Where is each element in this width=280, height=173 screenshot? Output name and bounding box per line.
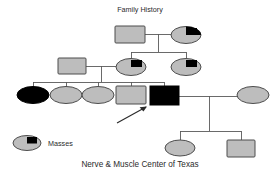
masses-marker-I-2 bbox=[186, 28, 197, 35]
person-III-3-female-unaffected[interactable] bbox=[82, 87, 114, 104]
person-I-1-male-unaffected[interactable] bbox=[115, 26, 145, 43]
legend-label-masses: Masses bbox=[48, 139, 73, 148]
person-III-6-female-unaffected[interactable] bbox=[237, 87, 269, 104]
person-III-2-female-unaffected[interactable] bbox=[50, 87, 82, 104]
masses-marker-II-2 bbox=[131, 60, 142, 67]
person-III-5-male-proband-affected[interactable] bbox=[150, 86, 179, 105]
pedigree-chart: Family History bbox=[0, 0, 280, 173]
person-II-3-female-masses[interactable] bbox=[171, 59, 201, 76]
person-III-4-male-unaffected[interactable] bbox=[116, 86, 146, 104]
masses-marker-II-3 bbox=[186, 60, 197, 67]
person-IV-2-male-unaffected[interactable] bbox=[227, 140, 255, 157]
footer-caption: Nerve & Muscle Center of Texas bbox=[81, 160, 198, 169]
person-III-1-female-affected[interactable] bbox=[17, 87, 49, 104]
person-I-2-female-masses[interactable] bbox=[171, 27, 201, 44]
person-IV-1-female-unaffected[interactable] bbox=[165, 140, 195, 156]
legend-symbol-masses-icon bbox=[13, 136, 41, 151]
generation-II bbox=[58, 58, 201, 76]
legend-masses-quadrant bbox=[27, 137, 37, 144]
person-II-2-female-masses[interactable] bbox=[116, 59, 146, 76]
page-title: Family History bbox=[117, 5, 163, 14]
person-II-1-male-unaffected[interactable] bbox=[58, 58, 86, 74]
